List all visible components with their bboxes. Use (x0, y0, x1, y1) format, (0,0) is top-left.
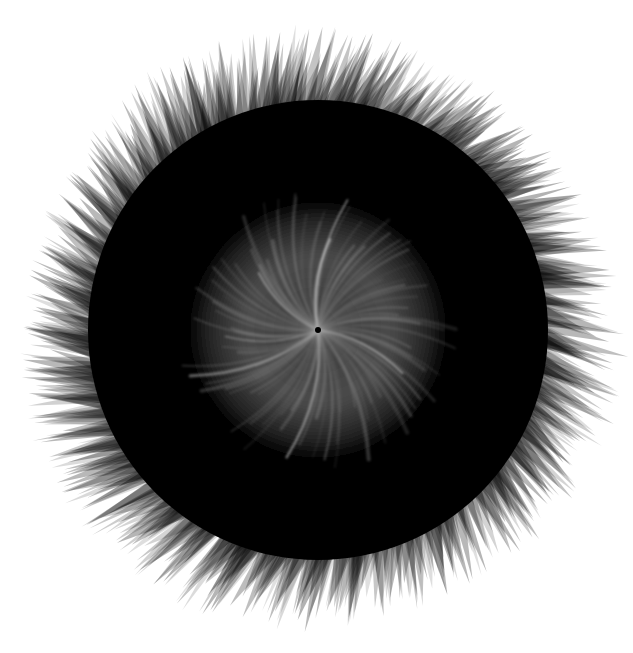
radial-burst-artwork (0, 0, 633, 653)
center-point (315, 327, 321, 333)
